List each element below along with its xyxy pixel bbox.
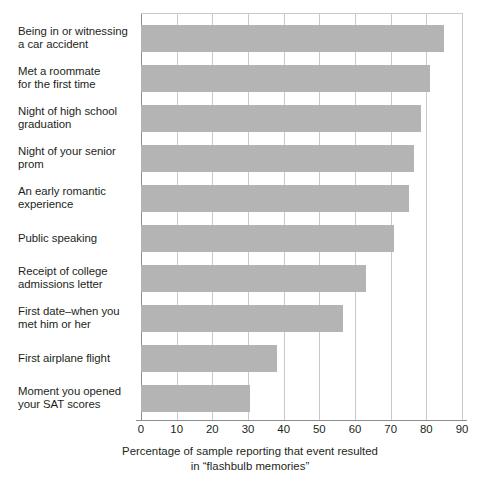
plot-area [141, 14, 462, 420]
category-label: Night of your seniorprom [18, 145, 138, 172]
category-label: Being in or witnessinga car accident [18, 25, 138, 52]
category-label-line-1: Being in or witnessing [18, 25, 138, 39]
x-tick-label: 60 [335, 423, 375, 435]
x-tick-label: 90 [442, 423, 482, 435]
category-label: First date–when youmet him or her [18, 305, 138, 332]
category-label-line-1: Public speaking [18, 232, 138, 246]
category-label-line-1: Receipt of college [18, 265, 138, 279]
category-label-line-2: your SAT scores [18, 398, 138, 412]
category-label: Met a roommatefor the first time [18, 65, 138, 92]
bar [141, 265, 366, 292]
x-axis-caption-line-2: in “flashbulb memories” [60, 459, 440, 474]
category-label: Night of high schoolgraduation [18, 105, 138, 132]
category-label-line-2: for the first time [18, 78, 138, 92]
bar [141, 25, 444, 52]
bar [141, 225, 394, 252]
x-axis-tick-labels: 0102030405060708090 [141, 421, 462, 437]
bar [141, 145, 414, 172]
category-label: Moment you openedyour SAT scores [18, 385, 138, 412]
x-tick-label: 80 [406, 423, 446, 435]
category-label-line-1: Night of your senior [18, 145, 138, 159]
category-label-line-1: An early romantic [18, 185, 138, 199]
category-label: Receipt of collegeadmissions letter [18, 265, 138, 292]
category-label-line-2: admissions letter [18, 278, 138, 292]
category-label: An early romanticexperience [18, 185, 138, 212]
category-label-line-2: prom [18, 158, 138, 172]
category-label: Public speaking [18, 232, 138, 246]
category-axis-labels: Being in or witnessinga car accidentMet … [0, 14, 134, 420]
bar [141, 65, 430, 92]
category-label-line-2: met him or her [18, 318, 138, 332]
x-tick-label: 0 [121, 423, 161, 435]
category-label-line-1: First airplane flight [18, 352, 138, 366]
x-axis-caption: Percentage of sample reporting that even… [60, 444, 440, 473]
gridline-90 [462, 14, 463, 420]
bar-chart: Being in or witnessinga car accidentMet … [0, 0, 484, 486]
category-label-line-2: a car accident [18, 38, 138, 52]
x-tick-label: 10 [157, 423, 197, 435]
category-label-line-1: Night of high school [18, 105, 138, 119]
category-label-line-2: graduation [18, 118, 138, 132]
bar [141, 345, 277, 372]
x-tick-label: 30 [228, 423, 268, 435]
bar [141, 105, 421, 132]
category-label-line-1: Met a roommate [18, 65, 138, 79]
x-tick-label: 20 [192, 423, 232, 435]
x-tick-label: 40 [264, 423, 304, 435]
bar [141, 385, 250, 412]
x-axis-caption-line-1: Percentage of sample reporting that even… [60, 444, 440, 459]
category-label: First airplane flight [18, 352, 138, 366]
category-label-line-1: Moment you opened [18, 385, 138, 399]
x-tick-label: 50 [299, 423, 339, 435]
bar [141, 305, 343, 332]
category-label-line-2: experience [18, 198, 138, 212]
bar [141, 185, 409, 212]
category-label-line-1: First date–when you [18, 305, 138, 319]
x-tick-label: 70 [371, 423, 411, 435]
